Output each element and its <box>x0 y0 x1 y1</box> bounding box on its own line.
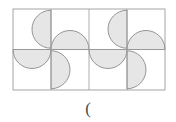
half-disc-r0c2 <box>108 10 127 48</box>
half-disc-r1c3 <box>127 51 146 89</box>
caption-paren-glyph: ( <box>85 96 91 122</box>
half-disc-r1c2 <box>89 50 127 69</box>
half-disc-r0c3 <box>127 31 165 50</box>
figure-container: ( <box>0 0 176 122</box>
half-disc-r1c0 <box>13 50 51 69</box>
half-disc-r0c0 <box>32 10 51 48</box>
half-disc-r1c1 <box>51 51 70 89</box>
half-disc-r0c1 <box>51 31 89 50</box>
caption-row: ( <box>0 96 176 122</box>
